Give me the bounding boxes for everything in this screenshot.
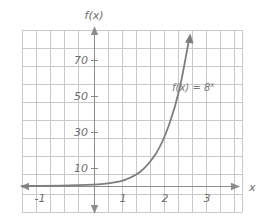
y-tick-label-50: 50 (74, 90, 88, 103)
equation-exponent-text: x (209, 81, 215, 89)
x-tick-label-neg1: -1 (35, 192, 46, 205)
y-tick-label-10: 10 (74, 162, 88, 175)
curve-equation-label: f(x) = 8x (172, 81, 215, 93)
x-axis-arrow-right (231, 183, 240, 190)
coordinate-plane: 70 50 30 10 -1 1 2 3 f(x) x f(x) = 8x (0, 0, 272, 224)
y-axis-title: f(x) (85, 9, 104, 22)
function-curve (22, 34, 194, 187)
x-axis-title: x (248, 181, 256, 194)
y-tick-label-70: 70 (74, 54, 88, 67)
x-tick-label-2: 2 (162, 192, 169, 205)
equation-base-text: f(x) = 8 (172, 82, 210, 93)
y-tick-label-30: 30 (74, 126, 88, 139)
x-tick-label-3: 3 (204, 192, 211, 205)
x-tick-label-1: 1 (120, 192, 127, 205)
svg-text:f(x) = 8x: f(x) = 8x (172, 81, 215, 93)
graph-figure: 70 50 30 10 -1 1 2 3 f(x) x f(x) = 8x (0, 0, 272, 224)
